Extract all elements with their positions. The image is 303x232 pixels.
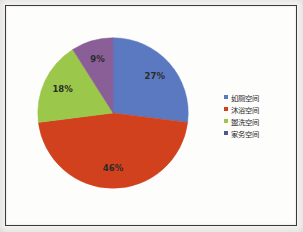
legend-item[interactable]: 如厕空间: [224, 91, 294, 103]
legend-item-label: 沐浴空间: [231, 104, 259, 115]
legend-item[interactable]: 盥洗空间: [224, 115, 294, 127]
legend-item[interactable]: 沐浴空间: [224, 103, 294, 115]
pie-chart-svg: 27%46%18%9%: [37, 37, 189, 189]
legend-item[interactable]: 家务空间: [224, 127, 294, 139]
legend-item-label: 盥洗空间: [231, 116, 259, 127]
legend-color-swatch-icon: [224, 107, 228, 111]
pie-data-label: 46%: [103, 163, 124, 173]
chart-frame: 27%46%18%9% 如厕空间沐浴空间盥洗空间家务空间: [5, 5, 297, 226]
legend-color-swatch-icon: [224, 131, 228, 135]
pie-slice: [38, 113, 187, 188]
pie-data-label: 18%: [52, 84, 73, 94]
chart-legend: 如厕空间沐浴空间盥洗空间家务空间: [224, 91, 294, 139]
legend-color-swatch-icon: [224, 95, 228, 99]
pie-data-label: 9%: [90, 54, 105, 64]
legend-item-label: 家务空间: [231, 128, 259, 139]
scanned-page-background: 27%46%18%9% 如厕空间沐浴空间盥洗空间家务空间: [0, 0, 303, 232]
chart-plot-area: 27%46%18%9% 如厕空间沐浴空间盥洗空间家务空间: [6, 6, 298, 227]
pie-data-label: 27%: [145, 71, 166, 81]
legend-color-swatch-icon: [224, 119, 228, 123]
legend-item-label: 如厕空间: [231, 92, 259, 103]
pie-chart: 27%46%18%9%: [37, 37, 189, 189]
